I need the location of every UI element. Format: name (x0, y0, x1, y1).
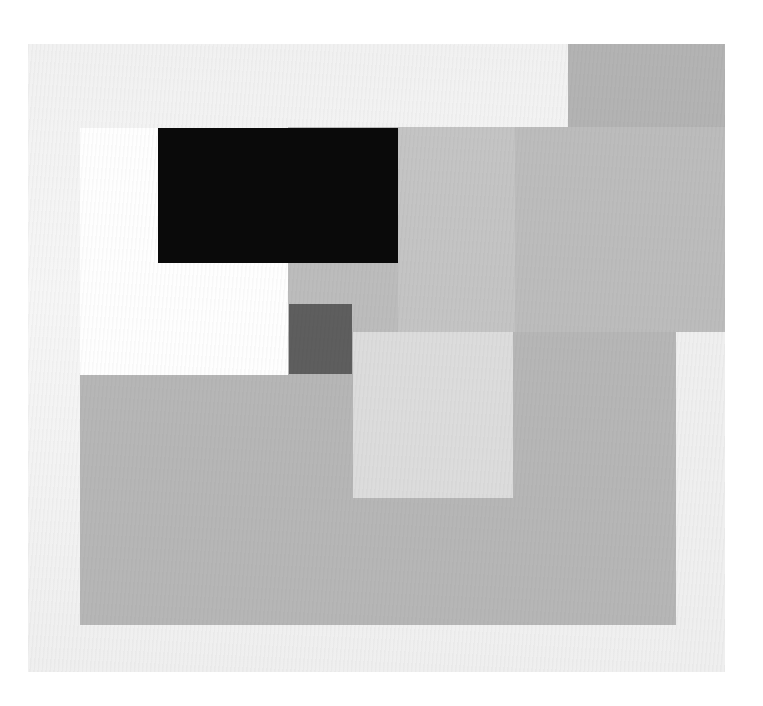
canvas-texture (28, 44, 725, 672)
